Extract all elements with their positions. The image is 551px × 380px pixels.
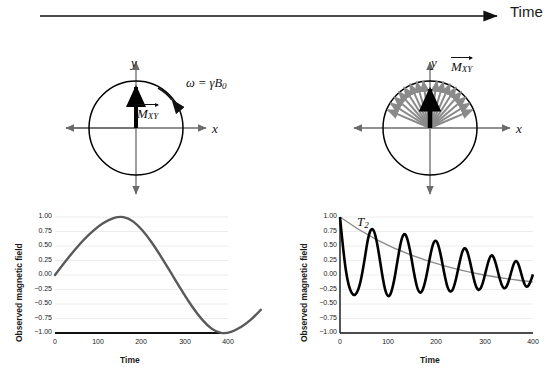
chart-sine-ytick-3: 0.25 (22, 256, 52, 263)
magnetization-subscript-left: XY (148, 111, 159, 121)
chart-fid-xtick-3: 300 (475, 338, 495, 345)
chart-fid-ytick-1: 0.75 (307, 227, 337, 234)
chart-sine-xlabel: Time (120, 355, 140, 365)
chart-fid-ytick-2: 0.50 (307, 241, 337, 248)
chart-fid-ytick-6: −0.50 (307, 299, 337, 306)
chart-fid-ytick-0: 1.00 (307, 212, 337, 219)
vector-diagram-right (330, 48, 545, 198)
magnetization-subscript-right: XY (462, 64, 473, 74)
vector-overbar-right (451, 57, 472, 58)
precession-arrow (158, 88, 172, 100)
chart-fid-ytick-8: −1.00 (307, 328, 337, 335)
chart-fid-ytick-7: −0.75 (307, 314, 337, 321)
precession-frequency-label: ω = γB0 (186, 76, 227, 91)
chart-fid-xtick-4: 400 (523, 338, 543, 345)
chart-fid-ytick-3: 0.25 (307, 256, 337, 263)
chart-sine: Observed magnetic field 1.00 0.75 0.50 0… (0, 205, 280, 380)
magnetization-label-left: MXY (137, 104, 158, 122)
vector-overbar-left (137, 104, 158, 105)
vector-diagram-left (36, 48, 276, 198)
chart-fid-ytick-4: 0.00 (307, 270, 337, 277)
chart-sine-ytick-4: 0.00 (22, 270, 52, 277)
chart-fid-xlabel: Time (420, 355, 440, 365)
omega-expression: ω = γB (186, 76, 222, 90)
time-axis-label: Time (510, 3, 543, 20)
chart-sine-ytick-6: −0.50 (22, 299, 52, 306)
chart-fid-xtick-1: 100 (378, 338, 398, 345)
chart-sine-xtick-3: 300 (175, 338, 195, 345)
y-axis-label-right: y (431, 55, 437, 71)
chart-fid-xtick-2: 200 (426, 338, 446, 345)
time-axis-arrow (0, 0, 551, 40)
chart-sine-xtick-2: 200 (131, 338, 151, 345)
magnetization-symbol-right: M (451, 59, 462, 74)
chart-sine-ytick-0: 1.00 (22, 212, 52, 219)
chart-sine-gridlines (55, 217, 228, 319)
chart-sine-ytick-1: 0.75 (22, 227, 52, 234)
chart-sine-ytick-5: −0.25 (22, 285, 52, 292)
chart-sine-ytick-7: −0.75 (22, 314, 52, 321)
omega-subscript: 0 (222, 81, 227, 91)
x-axis-label-right: x (516, 121, 522, 137)
chart-sine-xtick-1: 100 (88, 338, 108, 345)
chart-fid-xtick-0: 0 (330, 338, 350, 345)
chart-fid: Observed magnetic field T2 1.0 (285, 205, 551, 380)
magnetization-label-right: MXY (451, 57, 472, 75)
chart-sine-xtick-0: 0 (45, 338, 65, 345)
chart-fid-ytick-5: −0.25 (307, 285, 337, 292)
chart-fid-t2-label: T2 (357, 214, 369, 230)
x-axis-label-left: x (212, 121, 218, 137)
y-axis-label-left: y (131, 55, 137, 71)
chart-sine-xtick-4: 400 (218, 338, 238, 345)
magnetization-symbol-left: M (137, 106, 148, 121)
figure-canvas: Time x y MXY ω = γB0 (0, 0, 551, 380)
chart-sine-ytick-8: −1.00 (22, 328, 52, 335)
chart-sine-ytick-2: 0.50 (22, 241, 52, 248)
t2-subscript: 2 (364, 220, 369, 230)
